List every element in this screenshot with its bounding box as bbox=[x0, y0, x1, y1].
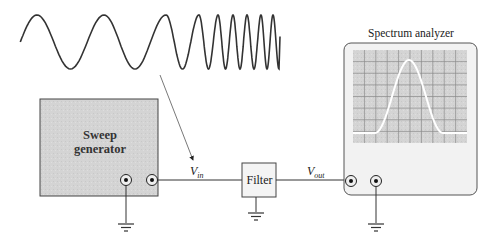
spectrum-analyzer-label: Spectrum analyzer bbox=[344, 27, 478, 39]
analyzer-ground-icon bbox=[368, 224, 384, 231]
vout-label: Vout bbox=[307, 164, 325, 180]
generator-output-connector bbox=[147, 175, 158, 186]
sweep-generator-label-line2: generator bbox=[40, 142, 160, 156]
signal-arrow bbox=[160, 75, 193, 160]
generator-ground-connector bbox=[121, 175, 132, 186]
sweep-waveform bbox=[20, 15, 280, 69]
vout-subscript: out bbox=[314, 171, 324, 180]
analyzer-ground-connector bbox=[371, 176, 382, 187]
filter-label: Filter bbox=[242, 173, 277, 188]
measurement-diagram: Sweep generator Filter Spectrum analyzer… bbox=[0, 0, 490, 244]
sweep-generator-label: Sweep generator bbox=[40, 128, 160, 156]
generator-ground-icon bbox=[118, 224, 134, 231]
vin-subscript: in bbox=[197, 171, 203, 180]
filter-ground-icon bbox=[248, 213, 264, 220]
analyzer-input-connector bbox=[346, 176, 357, 187]
sweep-generator-label-line1: Sweep bbox=[40, 128, 160, 142]
vin-label: Vin bbox=[190, 164, 204, 180]
